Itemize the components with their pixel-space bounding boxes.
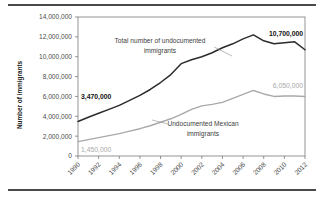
y-tick-label: 2,000,000 [43,133,73,140]
series-label-mexican-line2: immigrants [187,130,220,138]
y-tick-label: 8,000,000 [43,73,73,80]
x-tick-label: 1994 [107,161,123,177]
x-tick-label: 2000 [169,161,185,177]
series-line-total [78,35,305,122]
y-tick-label: 14,000,000 [39,13,72,20]
y-axis-title-text: Number of immigrants [16,60,24,129]
y-tick-label: 12,000,000 [39,33,72,40]
x-tick-label: 2006 [231,161,247,177]
value-label-mexican-end: 6,050,000 [273,82,303,89]
y-tick-label: 0 [68,152,72,159]
x-tick-label: 1996 [128,161,144,177]
x-tick-label: 2012 [293,161,309,177]
x-tick-label: 2008 [252,161,268,177]
series-label-mexican-line1: Undocumented Mexican [167,120,238,127]
y-tick-label: 10,000,000 [39,53,72,60]
x-tick-label: 2010 [272,161,288,177]
value-label-total-start: 3,470,000 [81,93,111,101]
x-tick-label: 2002 [190,161,206,177]
chart-figure: Number of immigrants 02,000,0004,000,000… [0,0,324,199]
x-tick-label: 1990 [66,161,82,177]
value-label-mexican-start: 1,450,000 [81,146,111,153]
x-tick-label: 1992 [87,161,103,177]
x-tick-label: 2004 [210,161,226,177]
line-chart: Number of immigrants 02,000,0004,000,000… [0,0,324,199]
series-label-total-line2: immigrants [144,47,177,55]
series-label-total-line1: Total number of undocumented [115,37,206,44]
x-tick-label: 1998 [148,161,164,177]
y-axis-title: Number of immigrants [16,60,24,129]
y-tick-label: 4,000,000 [43,113,73,120]
y-tick-label: 6,000,000 [43,93,73,100]
x-tick-labels: 1990199219941996199820002002200420062008… [66,156,309,176]
value-label-total-end: 10,700,000 [269,30,303,38]
y-tick-labels: 02,000,0004,000,0006,000,0008,000,00010,… [39,13,78,159]
